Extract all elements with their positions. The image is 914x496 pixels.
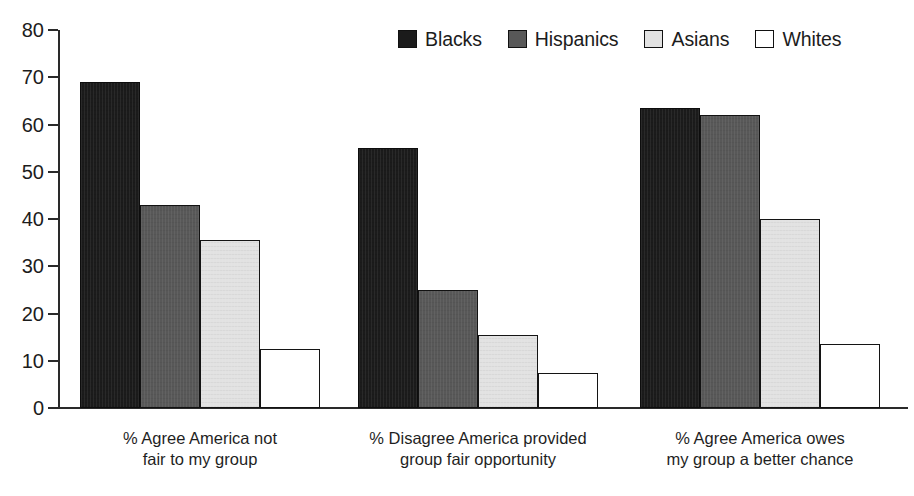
y-tick-mark bbox=[48, 407, 58, 409]
y-tick-mark bbox=[48, 313, 58, 315]
category-label-3: % Agree America owes my group a better c… bbox=[610, 428, 910, 470]
y-tick-label-wrap: 40 bbox=[0, 209, 44, 229]
y-tick-label: 60 bbox=[0, 115, 44, 135]
y-tick-label-wrap: 30 bbox=[0, 256, 44, 276]
y-tick-mark bbox=[48, 29, 58, 31]
y-tick-mark bbox=[48, 360, 58, 362]
bar-group2-hispanics bbox=[418, 290, 478, 408]
y-tick-label-wrap: 80 bbox=[0, 20, 44, 40]
y-tick-label: 20 bbox=[0, 304, 44, 324]
y-tick-label: 40 bbox=[0, 209, 44, 229]
bar-group2-whites bbox=[538, 373, 598, 408]
bar-group3-hispanics bbox=[700, 115, 760, 408]
y-tick-label: 0 bbox=[0, 398, 44, 418]
y-tick-label: 80 bbox=[0, 20, 44, 40]
y-tick-mark bbox=[48, 265, 58, 267]
bar-group3-asians bbox=[760, 219, 820, 408]
y-axis-line bbox=[58, 30, 60, 409]
y-tick-mark bbox=[48, 218, 58, 220]
y-tick-label-wrap: 0 bbox=[0, 398, 44, 418]
bar-group2-blacks bbox=[358, 148, 418, 408]
category-label-2: % Disagree America provided group fair o… bbox=[328, 428, 628, 470]
bar-chart: BlacksHispanicsAsiansWhites 010203040506… bbox=[0, 0, 914, 496]
y-tick-label-wrap: 50 bbox=[0, 162, 44, 182]
y-tick-mark bbox=[48, 124, 58, 126]
bar-group1-hispanics bbox=[140, 205, 200, 408]
y-tick-label-wrap: 70 bbox=[0, 67, 44, 87]
bar-group3-blacks bbox=[640, 108, 700, 408]
plot-area: 01020304050607080 % Agree America not fa… bbox=[0, 0, 914, 496]
y-tick-label-wrap: 10 bbox=[0, 351, 44, 371]
bar-group3-whites bbox=[820, 344, 880, 408]
y-tick-label: 50 bbox=[0, 162, 44, 182]
category-label-1: % Agree America not fair to my group bbox=[50, 428, 350, 470]
y-tick-label-wrap: 60 bbox=[0, 115, 44, 135]
y-tick-label: 30 bbox=[0, 256, 44, 276]
bar-group1-blacks bbox=[80, 82, 140, 408]
y-tick-mark bbox=[48, 171, 58, 173]
bar-group2-asians bbox=[478, 335, 538, 408]
bar-group1-asians bbox=[200, 240, 260, 408]
y-tick-mark bbox=[48, 76, 58, 78]
y-tick-label: 10 bbox=[0, 351, 44, 371]
bar-group1-whites bbox=[260, 349, 320, 408]
y-tick-label: 70 bbox=[0, 67, 44, 87]
y-tick-label-wrap: 20 bbox=[0, 304, 44, 324]
